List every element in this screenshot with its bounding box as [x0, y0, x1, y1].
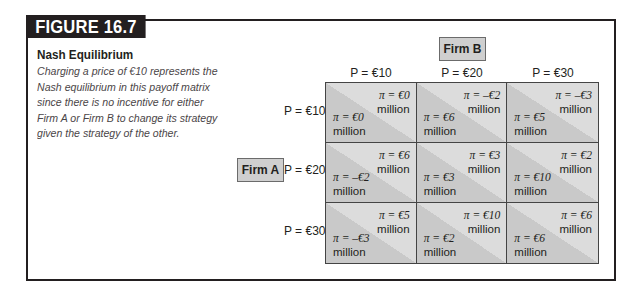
- firm-a-payoff: π = –€2million: [333, 170, 370, 198]
- payoff-matrix: π = €0million π = €0million π = –€2milli…: [325, 82, 599, 264]
- figure-tag: FIGURE 16.7: [26, 15, 146, 38]
- firm-b-payoff: π = €3million: [468, 148, 501, 176]
- row-header-3: P = €30: [284, 224, 325, 238]
- firm-a-payoff: π = €5million: [514, 110, 547, 138]
- payoff-cell: π = €3million π = €3million: [417, 143, 508, 203]
- payoff-cell: π = €2million π = €10million: [507, 143, 598, 203]
- row-header-2: P = €20: [284, 163, 325, 177]
- firm-a-payoff: π = €3million: [424, 170, 457, 198]
- row-header-1: P = €10: [284, 104, 325, 118]
- firm-a-payoff: π = €0million: [333, 110, 366, 138]
- payoff-cell: π = €6million π = €6million: [507, 203, 598, 263]
- firm-b-payoff: π = –€3million: [555, 88, 592, 116]
- column-header-1: P = €10: [325, 66, 417, 80]
- figure-title: Nash Equilibrium: [37, 47, 133, 62]
- firm-b-label: Firm B: [439, 37, 486, 61]
- column-header-3: P = €30: [507, 66, 599, 80]
- payoff-cell: π = –€3million π = €5million: [507, 83, 598, 143]
- column-header-2: P = €20: [416, 66, 508, 80]
- payoff-cell: π = €5million π = –€3million: [326, 203, 417, 263]
- firm-b-payoff: π = –€2million: [464, 88, 501, 116]
- firm-a-payoff: π = €6million: [514, 231, 547, 259]
- firm-b-payoff: π = €10million: [464, 208, 501, 236]
- firm-b-payoff: π = €6million: [559, 208, 592, 236]
- payoff-cell: π = €6million π = –€2million: [326, 143, 417, 203]
- figure-caption: Charging a price of €10 represents the N…: [37, 64, 221, 142]
- firm-b-payoff: π = €2million: [559, 148, 592, 176]
- firm-b-payoff: π = €6million: [377, 148, 410, 176]
- payoff-cell: π = €10million π = €2million: [417, 203, 508, 263]
- firm-b-payoff: π = €0million: [377, 88, 410, 116]
- firm-a-label: Firm A: [237, 158, 284, 182]
- firm-b-payoff: π = €5million: [377, 208, 410, 236]
- firm-a-payoff: π = €10million: [514, 170, 551, 198]
- payoff-cell: π = –€2million π = €6million: [417, 83, 508, 143]
- firm-a-payoff: π = €6million: [424, 110, 457, 138]
- firm-a-payoff: π = –€3million: [333, 231, 370, 259]
- firm-a-payoff: π = €2million: [424, 231, 457, 259]
- payoff-cell: π = €0million π = €0million: [326, 83, 417, 143]
